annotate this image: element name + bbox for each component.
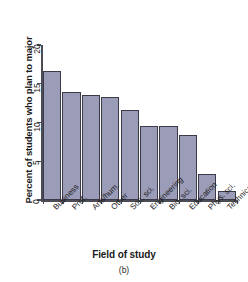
plot-area: 05101520 <box>41 40 237 200</box>
x-tick-label: Arts/hum. <box>91 206 97 212</box>
y-tick-label: 5 <box>33 161 42 166</box>
x-tick-label: Other <box>110 206 116 212</box>
x-tick-label: Phys. sci. <box>207 206 213 212</box>
bar-chart-figure: Percent of students who plan to major 05… <box>0 0 248 282</box>
bar <box>121 110 139 200</box>
x-tick-label: Bio. sci. <box>168 206 174 212</box>
y-tick-label: 10 <box>33 122 42 131</box>
x-axis-title: Field of study <box>0 249 248 260</box>
x-tick-label: Engineering <box>149 206 155 212</box>
bar <box>82 95 100 200</box>
y-tick-label: 0 <box>33 199 42 204</box>
bar-series <box>43 40 237 200</box>
x-axis-tick-labels: BusinessProf.Arts/hum.OtherSoc. sci.Engi… <box>41 204 241 250</box>
x-tick-label: Technical <box>226 206 232 212</box>
x-tick-label: Prof. <box>71 206 77 212</box>
x-tick-label: Education <box>188 206 194 212</box>
x-tick-label: Soc. sci. <box>129 206 135 212</box>
bar <box>43 71 61 200</box>
y-axis-title: Percent of students who plan to major <box>24 36 34 203</box>
y-tick-label: 15 <box>33 83 42 92</box>
x-tick-label: Business <box>52 206 58 212</box>
y-tick-label: 20 <box>33 44 42 53</box>
figure-caption: (b) <box>0 265 248 275</box>
